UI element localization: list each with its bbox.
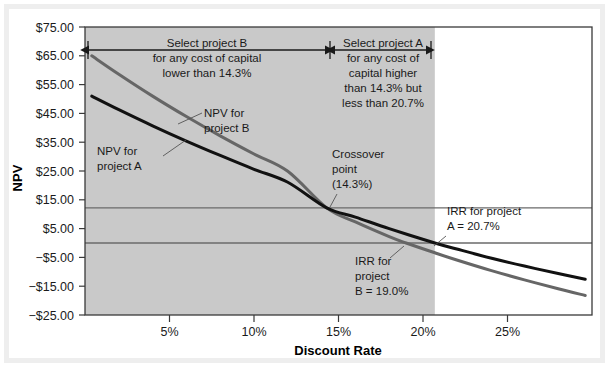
- svg-text:Select project B: Select project B: [167, 37, 248, 49]
- ytick-label: $5.00: [43, 222, 74, 236]
- y-axis-title: NPV: [10, 164, 25, 191]
- svg-text:(14.3%): (14.3%): [332, 178, 372, 190]
- ytick-label: −$5.00: [35, 251, 74, 265]
- ytick-label: $45.00: [36, 107, 74, 121]
- select-project-a-note: Select project A for any cost of capital…: [342, 37, 424, 109]
- svg-text:IRR for project: IRR for project: [447, 205, 522, 217]
- svg-text:Select project A: Select project A: [343, 37, 423, 49]
- svg-text:lower than 14.3%: lower than 14.3%: [163, 67, 252, 79]
- ytick-label: $15.00: [36, 193, 74, 207]
- ytick-label: $75.00: [36, 21, 74, 35]
- svg-text:for any cost of: for any cost of: [347, 52, 420, 64]
- x-axis-title: Discount Rate: [294, 343, 381, 358]
- svg-text:A = 20.7%: A = 20.7%: [447, 220, 500, 232]
- ytick-label: −$25.00: [28, 309, 74, 323]
- svg-text:than 14.3% but: than 14.3% but: [344, 82, 422, 94]
- xtick-label: 5%: [160, 325, 178, 339]
- svg-text:NPV for: NPV for: [97, 145, 137, 157]
- svg-text:project: project: [355, 270, 390, 282]
- select-project-b-note: Select project B for any cost of capital…: [153, 37, 262, 79]
- ytick-label: $65.00: [36, 49, 74, 63]
- ytick-label: $35.00: [36, 136, 74, 150]
- svg-text:IRR for: IRR for: [355, 255, 392, 267]
- ytick-label: −$15.00: [28, 280, 74, 294]
- xtick-label: 25%: [495, 325, 520, 339]
- svg-text:project A: project A: [97, 160, 142, 172]
- y-axis-ticks: [79, 27, 85, 315]
- svg-text:for any cost of capital: for any cost of capital: [153, 52, 262, 64]
- svg-text:point: point: [332, 163, 358, 175]
- xtick-label: 20%: [410, 325, 435, 339]
- ytick-label: $25.00: [36, 165, 74, 179]
- svg-text:NPV for: NPV for: [204, 107, 244, 119]
- svg-text:B = 19.0%: B = 19.0%: [355, 285, 408, 297]
- svg-text:Crossover: Crossover: [332, 148, 385, 160]
- npv-profile-chart: $75.00 $65.00 $55.00 $45.00 $35.00 $25.0…: [0, 0, 609, 367]
- svg-text:project B: project B: [204, 122, 250, 134]
- svg-text:capital higher: capital higher: [349, 67, 418, 79]
- svg-text:less than 20.7%: less than 20.7%: [342, 97, 424, 109]
- x-axis-ticks: [170, 315, 508, 322]
- chart-figure: $75.00 $65.00 $55.00 $45.00 $35.00 $25.0…: [0, 0, 609, 367]
- ytick-label: $55.00: [36, 78, 74, 92]
- xtick-label: 15%: [326, 325, 351, 339]
- xtick-label: 10%: [241, 325, 266, 339]
